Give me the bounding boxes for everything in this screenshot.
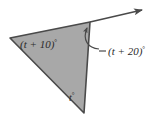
geometry-canvas: (t + 10)° (t + 20)° t° <box>0 0 160 125</box>
right-angle-label: (t + 20)° <box>108 45 145 58</box>
exterior-ray <box>90 10 142 22</box>
right-angle-label-text: (t + 20) <box>108 45 143 58</box>
triangle-shape <box>10 22 90 113</box>
right-angle-degree: ° <box>142 45 145 53</box>
geometry-figure: (t + 10)° (t + 20)° t° <box>0 0 160 125</box>
left-angle-label-text: (t + 10) <box>20 38 55 51</box>
left-angle-degree: ° <box>54 38 57 46</box>
left-angle-label: (t + 10)° <box>20 38 57 51</box>
bottom-angle-degree: ° <box>72 91 75 99</box>
